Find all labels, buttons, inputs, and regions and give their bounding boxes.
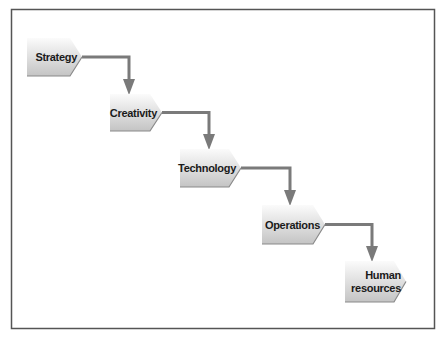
connector-creativity-to-technology bbox=[162, 113, 215, 151]
step-operations: Operations bbox=[262, 205, 325, 244]
arrowhead bbox=[284, 190, 296, 206]
connector-strategy-to-creativity bbox=[82, 57, 135, 95]
step-creativity: Creativity bbox=[110, 94, 162, 131]
step-label: Human bbox=[365, 269, 401, 281]
connector-line bbox=[325, 225, 372, 249]
process-diagram: StrategyCreativityTechnologyOperationsHu… bbox=[0, 0, 447, 343]
connector-line bbox=[82, 57, 129, 81]
arrowhead bbox=[203, 134, 215, 150]
step-technology: Technology bbox=[178, 149, 241, 187]
connector-line bbox=[162, 113, 209, 137]
step-strategy: Strategy bbox=[27, 38, 82, 76]
arrowhead bbox=[366, 246, 378, 262]
connector-line bbox=[241, 168, 290, 192]
step-label: Creativity bbox=[110, 107, 158, 119]
step-label: Operations bbox=[265, 219, 320, 231]
step-label: resources bbox=[351, 282, 401, 294]
arrowhead bbox=[123, 79, 135, 95]
step-label: Technology bbox=[178, 162, 237, 174]
step-human-resources: Humanresources bbox=[345, 261, 406, 302]
step-label: Strategy bbox=[35, 51, 78, 63]
connector-technology-to-operations bbox=[241, 168, 296, 206]
steps: StrategyCreativityTechnologyOperationsHu… bbox=[27, 38, 406, 302]
connector-operations-to-human-resources bbox=[325, 225, 378, 263]
